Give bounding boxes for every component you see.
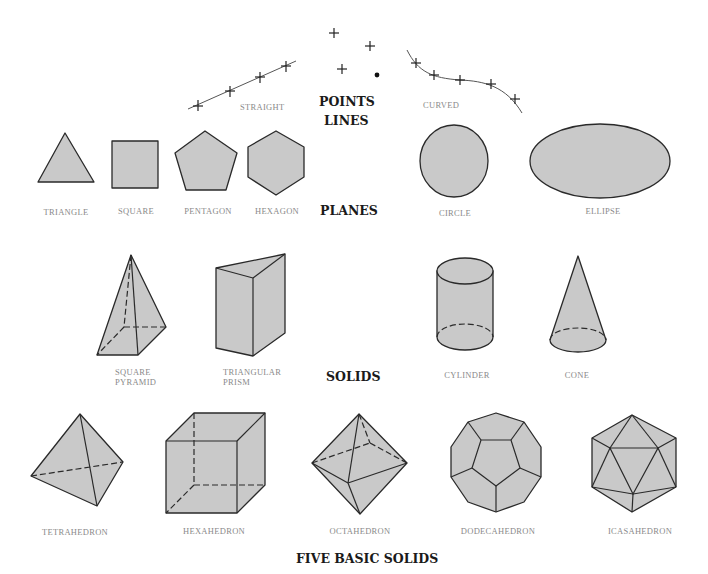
label-square-pyramid-line2: PYRAMID	[115, 377, 156, 387]
icosahedron-shape	[592, 415, 676, 512]
hexagon-shape	[248, 131, 304, 195]
label-ellipse: ELLIPSE	[585, 206, 620, 216]
label-triangular-prism-line2: PRISM	[223, 377, 250, 387]
circle-shape	[420, 125, 488, 197]
square-pyramid-shape	[97, 255, 166, 355]
point-cross-icon	[365, 41, 375, 51]
label-dodecahedron: DODECAHEDRON	[461, 526, 535, 536]
label-circle: CIRCLE	[439, 208, 471, 218]
heading-planes: PLANES	[320, 203, 378, 218]
point-cross-icon	[337, 64, 347, 74]
label-tetrahedron: TETRAHEDRON	[42, 527, 108, 537]
dodecahedron-shape	[451, 413, 541, 512]
point-dot-icon	[375, 73, 380, 78]
label-cylinder: CYLINDER	[444, 370, 489, 380]
triangular-prism-shape	[216, 254, 285, 356]
octahedron-shape	[312, 414, 407, 514]
label-triangular-prism-line1: TRIANGULAR	[223, 367, 281, 377]
square-shape	[112, 141, 158, 188]
tetrahedron-shape	[31, 414, 123, 506]
cone-shape	[550, 256, 606, 352]
pentagon-shape	[175, 131, 237, 190]
label-curved: CURVED	[423, 100, 459, 110]
heading-five-basic-solids: FIVE BASIC SOLIDS	[296, 551, 438, 566]
geometry-diagram: POINTS LINES PLANES SOLIDS FIVE BASIC SO…	[0, 0, 708, 574]
points-group	[329, 28, 379, 77]
label-cone: CONE	[565, 370, 589, 380]
label-straight: STRAIGHT	[240, 102, 284, 112]
label-square: SQUARE	[118, 206, 154, 216]
label-hexahedron: HEXAHEDRON	[183, 526, 245, 536]
label-square-pyramid-line1: SQUARE	[115, 367, 151, 377]
ellipse-shape	[530, 124, 670, 198]
cylinder-shape	[437, 258, 493, 350]
hexahedron-shape	[166, 413, 265, 513]
point-cross-icon	[329, 28, 339, 38]
label-triangle: TRIANGLE	[44, 207, 89, 217]
label-octahedron: OCTAHEDRON	[330, 526, 391, 536]
triangle-shape	[38, 133, 94, 182]
label-icosahedron: ICASAHEDRON	[608, 526, 672, 536]
heading-lines: LINES	[324, 113, 369, 128]
label-hexagon: HEXAGON	[255, 206, 299, 216]
label-pentagon: PENTAGON	[184, 206, 232, 216]
heading-solids: SOLIDS	[326, 369, 380, 384]
heading-points: POINTS	[319, 94, 375, 109]
diagram-art	[0, 0, 708, 574]
